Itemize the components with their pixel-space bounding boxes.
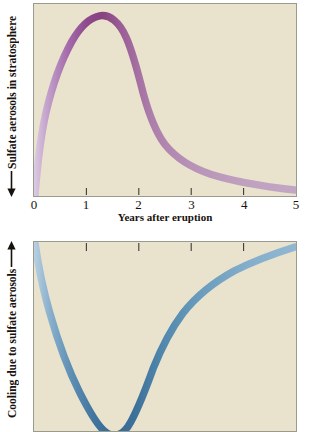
x-tick-3: 3 [188, 198, 195, 212]
y-axis-title-text: Sulfate aerosols in stratosphere [6, 16, 18, 169]
y-axis-title-sulfate-aerosols: Sulfate aerosols in stratosphere [6, 3, 18, 197]
x-axis-ticks [86, 188, 243, 195]
x-tick-5: 5 [293, 198, 300, 212]
x-axis-ticks [86, 243, 243, 251]
x-tick-0: 0 [31, 198, 38, 212]
cooling-curve [35, 243, 295, 431]
x-tick-1: 1 [83, 198, 90, 212]
sulfate-aerosols-curve-svg [34, 4, 296, 196]
x-tick-4: 4 [241, 198, 248, 212]
panel-cooling: Cooling due to sulfate aerosols [0, 222, 314, 432]
x-tick-2: 2 [135, 198, 142, 212]
cooling-curve-svg [34, 242, 296, 431]
sulfate-aerosols-curve [35, 16, 295, 195]
y-axis-title-cooling: Cooling due to sulfate aerosols [6, 241, 18, 432]
y-axis-title-text: Cooling due to sulfate aerosols [6, 269, 18, 418]
arrow-down-icon [8, 241, 17, 267]
plot-area-cooling [33, 241, 297, 432]
figure-container: Sulfate aerosols in stratosphere [0, 0, 314, 432]
arrow-up-icon [8, 171, 17, 197]
panel-sulfate-aerosols: Sulfate aerosols in stratosphere [0, 0, 314, 222]
plot-area-sulfate-aerosols [33, 3, 297, 197]
